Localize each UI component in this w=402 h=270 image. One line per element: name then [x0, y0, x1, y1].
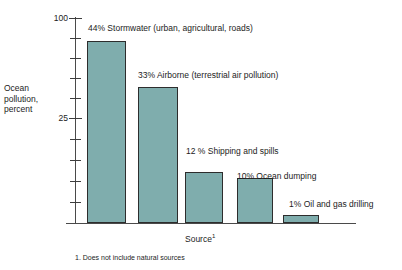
x-axis-title: Source1 [185, 233, 215, 244]
bar-label-shipping: 12 % Shipping and spills [186, 146, 279, 156]
x-axis-title-text: Source [185, 234, 212, 244]
y-axis-tick [70, 58, 81, 59]
y-axis-tick [70, 202, 81, 203]
y-axis-line [75, 17, 76, 224]
bar-label-oil-gas: 1% Oil and gas drilling [289, 199, 374, 209]
y-axis-tick [70, 181, 81, 182]
bar-ocean-dumping [237, 178, 273, 223]
y-axis-tick [70, 160, 81, 161]
bar-label-airborne: 33% Airborne (terrestrial air pollution) [138, 70, 278, 80]
x-axis-line [66, 223, 356, 224]
y-axis-tick [70, 98, 81, 99]
y-axis-label: Ocean pollution, percent [4, 83, 52, 115]
bar-stormwater [87, 41, 126, 223]
y-axis-tick [70, 78, 81, 79]
bar-shipping [185, 172, 223, 223]
chart-container: Ocean pollution, percent 100 25 44% Stor… [0, 0, 402, 270]
bar-label-stormwater: 44% Stormwater (urban, agricultural, roa… [88, 23, 253, 33]
y-axis-tick [69, 18, 82, 19]
x-axis-title-superscript: 1 [212, 233, 215, 239]
bar-airborne [138, 87, 178, 223]
bar-label-ocean-dumping: 10% Ocean dumping [237, 171, 316, 181]
y-axis-tick [69, 118, 82, 119]
y-axis-tick [70, 38, 81, 39]
y-axis-tick [70, 139, 81, 140]
y-tick-label-100: 100 [44, 13, 68, 23]
footnote: 1. Does not include natural sources [75, 254, 185, 261]
y-tick-label-25: 25 [44, 113, 68, 123]
bar-oil-gas [283, 215, 319, 223]
